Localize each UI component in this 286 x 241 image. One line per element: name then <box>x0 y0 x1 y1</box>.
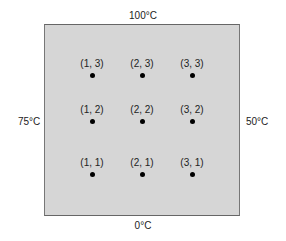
node-dot-icon <box>190 73 195 78</box>
node-dot-icon <box>140 172 145 177</box>
left-temperature-label: 75°C <box>18 116 40 127</box>
node-label: (3, 1) <box>172 157 212 169</box>
grid-node: (1, 3) <box>72 58 112 78</box>
node-dot-icon <box>190 119 195 124</box>
grid-node: (2, 3) <box>122 58 162 78</box>
node-dot-icon <box>140 119 145 124</box>
grid-node: (2, 2) <box>122 104 162 124</box>
node-dot-icon <box>90 172 95 177</box>
grid-node: (3, 3) <box>172 58 212 78</box>
node-dot-icon <box>90 119 95 124</box>
node-dot-icon <box>140 73 145 78</box>
grid-node: (2, 1) <box>122 157 162 177</box>
grid-node: (3, 2) <box>172 104 212 124</box>
top-temperature-label: 100°C <box>0 10 286 21</box>
node-label: (3, 3) <box>172 58 212 70</box>
right-temperature-label: 50°C <box>246 116 268 127</box>
bottom-temperature-label: 0°C <box>0 220 286 231</box>
node-label: (1, 1) <box>72 157 112 169</box>
node-label: (2, 1) <box>122 157 162 169</box>
grid-node: (1, 2) <box>72 104 112 124</box>
node-label: (2, 2) <box>122 104 162 116</box>
node-dot-icon <box>90 73 95 78</box>
node-label: (1, 2) <box>72 104 112 116</box>
grid-node: (1, 1) <box>72 157 112 177</box>
node-label: (2, 3) <box>122 58 162 70</box>
grid-node: (3, 1) <box>172 157 212 177</box>
node-label: (3, 2) <box>172 104 212 116</box>
node-dot-icon <box>190 172 195 177</box>
node-label: (1, 3) <box>72 58 112 70</box>
